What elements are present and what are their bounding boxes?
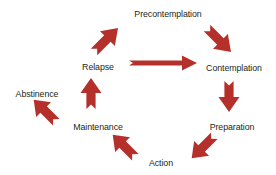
arrow-precontemplation-to-contemplation [200,21,239,60]
node-label-relapse: Relapse [77,61,120,72]
node-label-contemplation: Contemplation [201,62,268,73]
arrow-contemplation-to-preparation [219,81,240,112]
node-label-preparation: Preparation [203,121,261,132]
node-label-maintenance: Maintenance [68,121,128,132]
arrow-maintenance-to-relapse [81,78,102,109]
node-label-precontemplation: Precontemplation [133,8,204,19]
stages-of-change-diagram: Precontemplation Contemplation Preparati… [0,0,276,175]
node-label-abstinence: Abstinence [11,88,63,99]
arrow-action-to-maintenance [105,127,142,164]
arrow-relapse-to-precontemplation [87,21,126,60]
node-label-action: Action [142,157,179,168]
arrow-relapse-to-contemplation [129,56,197,71]
arrow-preparation-to-action [184,128,221,165]
